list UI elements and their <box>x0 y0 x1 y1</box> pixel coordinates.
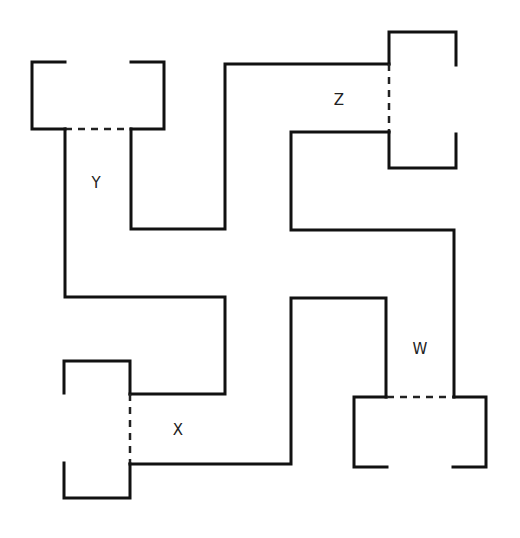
room-y <box>32 62 164 129</box>
room-w <box>354 397 486 467</box>
maze-diagram: Y Z X W <box>0 0 520 538</box>
room-y-wall-right <box>131 62 164 129</box>
room-x-wall-top <box>64 361 130 394</box>
label-x: X <box>173 421 183 439</box>
label-w: W <box>413 340 428 358</box>
corridor-z-inner-wall <box>291 132 454 397</box>
label-z: Z <box>334 91 344 109</box>
room-z <box>389 32 456 168</box>
corridor-z <box>291 132 454 397</box>
room-z-wall-bottom <box>389 132 456 168</box>
room-w-wall-right <box>453 397 486 467</box>
room-y-wall-left <box>32 62 65 129</box>
label-y: Y <box>90 174 101 192</box>
room-z-wall-top <box>389 32 456 65</box>
corridor-y-outer-wall <box>65 129 225 394</box>
room-x-wall-bottom <box>64 463 130 498</box>
room-x <box>64 361 130 498</box>
corridor-x-wall <box>130 298 386 464</box>
room-w-wall-left <box>354 397 387 467</box>
corridor-x <box>130 298 386 464</box>
corridor-y-inner-wall <box>131 64 389 229</box>
